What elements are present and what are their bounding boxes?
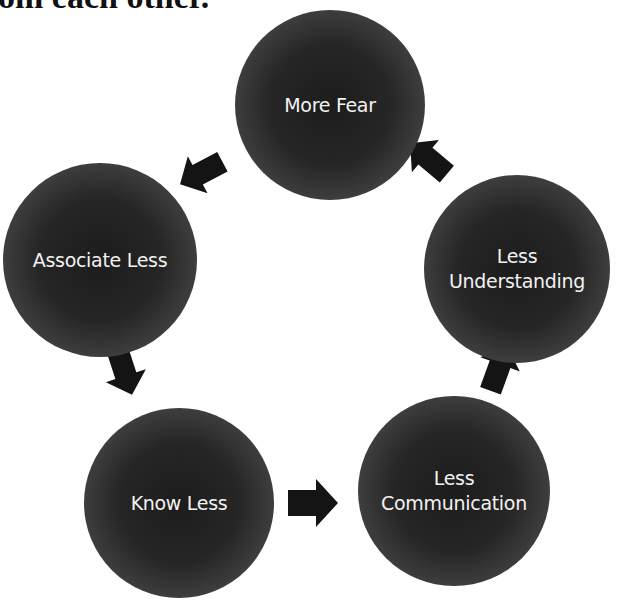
node-associate-less: Associate Less — [3, 163, 197, 357]
node-less-communication: Less Communication — [358, 396, 550, 586]
node-more-fear: More Fear — [235, 10, 425, 200]
node-label-line-2: Communication — [381, 491, 527, 516]
node-label-line-1: Less — [381, 466, 527, 491]
node-label-line-1: Less — [449, 244, 585, 269]
node-label: Associate Less — [33, 248, 168, 273]
node-know-less: Know Less — [84, 408, 274, 598]
node-label-line-2: Understanding — [449, 269, 585, 294]
arrow-right-icon — [288, 479, 338, 527]
node-label: Know Less — [131, 491, 228, 516]
arrow-down-left-icon — [170, 143, 232, 203]
node-less-understanding: Less Understanding — [424, 175, 610, 363]
node-label: More Fear — [284, 93, 375, 118]
